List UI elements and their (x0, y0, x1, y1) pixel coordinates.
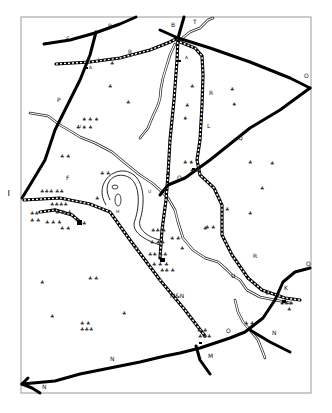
svg-text:♣ ♣: ♣ ♣ (88, 275, 99, 281)
label-L-mid: L (207, 122, 211, 129)
svg-text:♣: ♣ (95, 195, 99, 201)
label-U-low: U (231, 272, 235, 279)
label-H: H (116, 209, 119, 214)
label-N-corner: N (42, 383, 47, 390)
hand-drawn-map: ♠ ♣ ♠ ♣ ♠ ♣ ♣ ♣ ♣ ♣ ♣ ♠ ♣ ♠ ♣ ♣ ♣ ♣ ♣ ♣ … (0, 0, 332, 413)
svg-text:♣ ♣: ♣ ♣ (170, 235, 181, 241)
svg-text:♣: ♣ (50, 313, 54, 319)
svg-text:♣♣♣: ♣♣♣ (80, 326, 93, 332)
svg-text:♣ ♣: ♣ ♣ (100, 170, 111, 176)
svg-text:♣ ♣: ♣ ♣ (60, 225, 71, 231)
svg-text:♣♣ ♣: ♣♣ ♣ (151, 227, 166, 233)
label-F: F (66, 174, 70, 181)
svg-text:♣♣♣: ♣♣♣ (198, 333, 211, 339)
svg-text:♣: ♣ (260, 185, 264, 191)
svg-text:♣: ♣ (270, 160, 274, 166)
label-R-low: R (253, 252, 257, 259)
svg-text:♣: ♣ (265, 290, 269, 296)
label-B: B (171, 21, 175, 28)
label-N-bottom: N (110, 355, 115, 362)
svg-text:♣: ♣ (185, 102, 189, 108)
label-A-right: A (185, 55, 189, 60)
label-M: M (208, 352, 213, 359)
edge-mark (8, 190, 10, 196)
svg-text:♣: ♣ (225, 206, 229, 212)
label-S: S (66, 35, 70, 42)
svg-text:♣: ♣ (108, 83, 112, 89)
label-Q-right: Q (238, 134, 243, 141)
svg-text:♣: ♣ (40, 279, 44, 285)
label-M-and-N: M&N (170, 292, 184, 299)
label-U-mid: U (148, 189, 151, 194)
label-O-low-right: O (306, 260, 311, 267)
svg-text:♣ ♣: ♣ ♣ (244, 320, 255, 326)
svg-text:♣: ♣ (122, 310, 126, 316)
svg-text:♣ ♣: ♣ ♣ (30, 217, 41, 223)
svg-text:♣♣ ♣: ♣♣ ♣ (160, 267, 175, 273)
svg-text:♣: ♣ (287, 306, 291, 312)
label-K-low: K (284, 284, 289, 291)
svg-text:♣ ♠: ♣ ♠ (183, 159, 194, 165)
svg-text:♣ ♣♣: ♣ ♣♣ (150, 239, 165, 245)
label-Q-mid: Q (177, 174, 182, 181)
svg-text:♣♣♣ ♣♣: ♣♣♣ ♣♣ (40, 188, 64, 194)
label-A-top: A (89, 65, 93, 70)
svg-text:♣: ♣ (203, 225, 207, 231)
svg-text:♣: ♣ (82, 220, 86, 226)
svg-text:♣♣ ♣♣: ♣♣ ♣♣ (148, 251, 168, 257)
label-O-right: O (304, 72, 309, 79)
svg-text:♣: ♣ (190, 83, 194, 89)
svg-text:♠ ♣ ♠: ♠ ♣ ♠ (82, 116, 99, 122)
svg-text:♣: ♣ (248, 159, 252, 165)
svg-text:♠: ♠ (183, 115, 187, 121)
label-R-mid: R (209, 89, 213, 96)
svg-text:♣: ♣ (180, 245, 184, 251)
svg-text:♣: ♣ (110, 60, 114, 66)
rivers (30, 18, 290, 358)
svg-text:♣: ♣ (248, 210, 252, 216)
label-N-right: N (272, 329, 277, 336)
svg-text:♣♣♣♣: ♣♣♣♣ (50, 201, 68, 207)
svg-text:♣♣: ♣♣ (30, 210, 39, 216)
label-P-left: P (57, 96, 61, 103)
svg-text:♣: ♣ (126, 99, 130, 105)
svg-text:♣: ♣ (230, 86, 234, 92)
svg-text:♠: ♠ (232, 101, 236, 107)
label-R-top: R (128, 48, 132, 55)
label-U-top: U (78, 124, 81, 129)
svg-text:♣ ♣: ♣ ♣ (60, 153, 71, 159)
label-T: T (192, 18, 197, 25)
label-P-top: P (108, 22, 112, 29)
svg-text:♣ ♣: ♣ ♣ (190, 167, 201, 173)
label-O-low: O (226, 327, 231, 334)
svg-text:♣ ♣ ♣: ♣ ♣ ♣ (55, 209, 72, 215)
